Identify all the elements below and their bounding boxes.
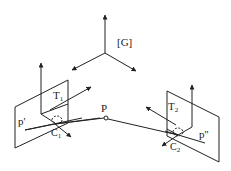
camera2-frame-label: T2	[168, 101, 178, 114]
global-frame-label: [G]	[117, 37, 132, 48]
stereo-camera-diagram: [G] T1 p' C1 P T2 p'' C2	[0, 0, 231, 171]
camera1-center-letter: C	[51, 127, 58, 138]
point-p-marker	[104, 116, 108, 120]
camera2-center-letter: C	[170, 141, 177, 152]
camera1-center-subscript: 1	[58, 132, 62, 140]
camera2-frame-letter: T	[168, 100, 175, 112]
camera2-frame-subscript: 2	[175, 106, 179, 114]
camera1-frame-label: T1	[53, 90, 63, 103]
camera2-center-subscript: 2	[177, 146, 181, 154]
camera1-center-label: C1	[51, 128, 61, 140]
camera1-image-point-label: p'	[18, 116, 25, 127]
camera2-center-label: C2	[170, 142, 180, 154]
camera2-frame-axes	[146, 85, 205, 146]
camera1-frame-letter: T	[53, 89, 60, 101]
diagram-canvas	[0, 0, 231, 171]
camera2-image-point-label: p''	[199, 129, 208, 140]
point-p-label: P	[101, 103, 107, 114]
camera1-frame-subscript: 1	[60, 95, 64, 103]
